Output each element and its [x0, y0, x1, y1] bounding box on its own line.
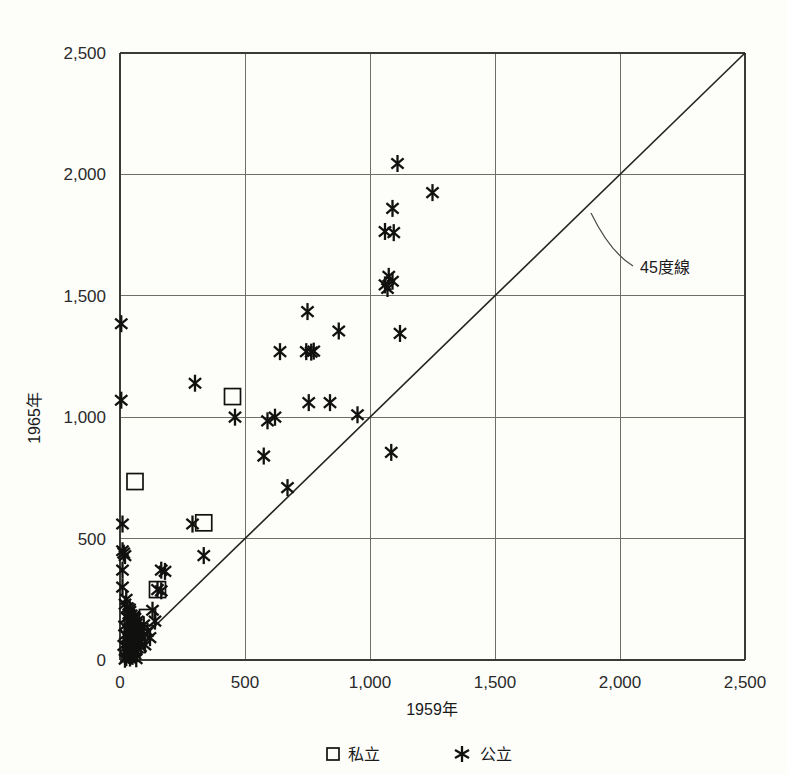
data-point-public — [333, 323, 345, 340]
legend-item-private: 私立 — [327, 746, 380, 763]
y-tick-label: 500 — [78, 530, 106, 549]
data-point-public — [115, 392, 127, 409]
y-axis-tick-labels: 05001,0001,5002,0002,500 — [63, 44, 106, 670]
y-tick-label: 1,500 — [63, 287, 106, 306]
series-public — [115, 155, 438, 668]
legend-label-public: 公立 — [480, 746, 512, 763]
data-point-public — [115, 315, 127, 332]
x-tick-label: 500 — [231, 673, 259, 692]
data-point-public — [116, 516, 128, 533]
data-point-public — [426, 184, 438, 201]
data-point-public — [385, 444, 397, 461]
chart-canvas: 45度線 05001,0001,5002,0002,500 05001,0001… — [0, 0, 787, 774]
data-point-public — [301, 303, 313, 320]
y-tick-label: 2,000 — [63, 165, 106, 184]
legend-square-icon — [327, 748, 339, 760]
y-tick-label: 1,000 — [63, 408, 106, 427]
x-tick-label: 1,500 — [474, 673, 517, 692]
data-point-public — [198, 547, 210, 564]
scatter-chart-figure: 45度線 05001,0001,5002,0002,500 05001,0001… — [0, 0, 787, 774]
data-point-public — [189, 375, 201, 392]
data-point-public — [303, 394, 315, 411]
data-point-private — [127, 474, 143, 490]
data-point-public — [391, 155, 403, 172]
diagonal-45-degree-line — [120, 53, 745, 660]
data-point-public — [274, 343, 286, 360]
annotation-leader-line — [591, 213, 633, 266]
x-tick-label: 1,000 — [349, 673, 392, 692]
data-point-public — [324, 394, 336, 411]
data-point-public — [351, 406, 363, 423]
data-point-public — [394, 325, 406, 342]
x-tick-label: 2,500 — [724, 673, 767, 692]
data-point-public — [116, 562, 128, 579]
x-tick-label: 0 — [115, 673, 124, 692]
data-point-layer — [115, 155, 438, 668]
legend-item-public: 公立 — [455, 746, 512, 763]
data-point-private — [225, 389, 241, 405]
x-axis-tick-labels: 05001,0001,5002,0002,500 — [115, 673, 766, 692]
chart-legend: 私立 公立 — [327, 746, 512, 763]
legend-star-icon — [455, 746, 469, 762]
y-tick-label: 2,500 — [63, 44, 106, 63]
annotation-45-degree-label: 45度線 — [640, 259, 690, 276]
x-tick-label: 2,000 — [599, 673, 642, 692]
data-point-public — [386, 200, 398, 217]
y-tick-label: 0 — [97, 651, 106, 670]
series-private — [127, 389, 241, 626]
y-axis-title: 1965年 — [26, 392, 43, 444]
legend-label-private: 私立 — [348, 746, 380, 763]
x-axis-title: 1959年 — [406, 701, 458, 718]
data-point-public — [258, 448, 270, 465]
